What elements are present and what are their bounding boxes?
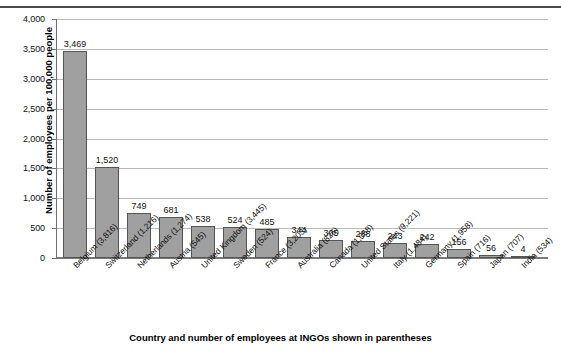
gridline-1500 [57,168,548,169]
chart-figure: Number of employees per 100,000 people 0… [0,0,561,353]
y-tick-label-500: 500 [5,223,45,233]
gridline-3500 [57,49,548,50]
gridline-1000 [57,198,548,199]
y-tick-label-3000: 3,000 [5,74,45,84]
bar-value-label: 3,469 [55,39,95,49]
y-tick-label-4000: 4,000 [5,14,45,24]
bar [63,51,87,258]
y-tick-label-2000: 2,000 [5,134,45,144]
x-axis-title: Country and number of employees at INGOs… [0,332,561,343]
gridline-3000 [57,79,548,80]
y-axis-title: Number of employees per 100,000 people [43,1,54,241]
y-tick-label-1000: 1,000 [5,193,45,203]
plot-area [57,19,548,258]
y-tick-label-2500: 2,500 [5,104,45,114]
top-divider-rule [0,6,561,8]
y-tick-label-0: 0 [5,253,45,263]
gridline-2000 [57,139,548,140]
bar-value-label: 1,520 [87,155,127,165]
gridline-2500 [57,109,548,110]
y-tick-label-1500: 1,500 [5,163,45,173]
y-tick-label-3500: 3,500 [5,44,45,54]
gridline-4000 [57,19,548,20]
